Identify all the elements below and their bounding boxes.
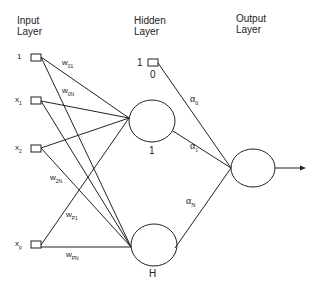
input-layer-title-line2: Layer xyxy=(17,26,42,37)
output-weight-alpha1: α1 xyxy=(190,140,198,153)
input-layer-title-line1: Input xyxy=(17,15,42,26)
hidden-layer-title-line2: Layer xyxy=(134,26,166,37)
output-arrow-icon xyxy=(300,166,306,171)
output-node xyxy=(231,149,275,187)
weight-label-wP1: wP1 xyxy=(66,210,78,221)
weight-label-wPN: wPN xyxy=(66,250,79,261)
input-node-x1 xyxy=(31,97,41,104)
hidden-node-H-label: H xyxy=(149,268,156,279)
input-label-bias: 1 xyxy=(17,52,21,61)
input-node-bias xyxy=(31,54,41,61)
output-weight-alphaN: αN xyxy=(186,195,196,208)
hidden-layer-title: Hidden Layer xyxy=(134,15,166,37)
weight-label-w0N: w0N xyxy=(62,86,74,97)
input-label-x2: x2 xyxy=(15,143,22,154)
output-layer-title-line1: Output xyxy=(236,13,266,24)
hidden-bias-label: 1 xyxy=(137,57,143,68)
output-layer-title: Output Layer xyxy=(236,13,266,35)
output-weight-alpha0: α0 xyxy=(190,93,198,106)
input-node-xp xyxy=(31,241,41,248)
input-node-x2 xyxy=(31,145,41,152)
hidden-node-1-label: 1 xyxy=(149,145,155,156)
input-layer-title: Input Layer xyxy=(17,15,42,37)
output-layer-title-line2: Layer xyxy=(236,24,266,35)
hidden-layer-title-line1: Hidden xyxy=(134,15,166,26)
weight-label-w2N: w2N xyxy=(50,173,62,184)
network-diagram xyxy=(0,0,320,289)
hidden-bias-index: 0 xyxy=(150,69,156,80)
hidden-node-1 xyxy=(129,100,175,142)
hidden-node-H xyxy=(131,224,177,266)
weight-label-w01: w01 xyxy=(62,58,73,69)
input-label-xp: xp xyxy=(15,239,22,250)
hidden-bias-node xyxy=(148,59,158,66)
input-label-x1: x1 xyxy=(15,95,22,106)
